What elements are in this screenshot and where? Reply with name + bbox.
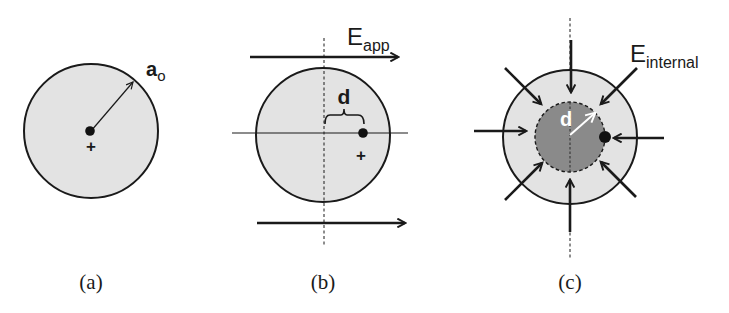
electron-cloud (256, 68, 390, 202)
radius-label: ao (146, 58, 165, 84)
panel-b: Eapp d + (b) (232, 23, 408, 294)
applied-field-label: Eapp (347, 23, 390, 54)
panel-c-caption: (c) (558, 270, 581, 294)
nucleus-dot (85, 126, 95, 136)
panel-a: + ao (a) (24, 58, 165, 294)
panel-a-caption: (a) (79, 270, 102, 294)
nucleus-sign: + (86, 137, 96, 156)
displacement-label: d (338, 85, 351, 108)
internal-field-label: Einternal (630, 40, 699, 71)
nucleus-dot (358, 128, 368, 138)
nucleus-dot (599, 131, 611, 143)
panel-c: d Einternal (c) (474, 18, 699, 294)
nucleus-sign: + (356, 146, 366, 165)
displacement-label: d (560, 108, 572, 130)
atom-polarization-figure: + ao (a) Eapp d + (b) (0, 0, 729, 313)
panel-b-caption: (b) (311, 270, 336, 294)
